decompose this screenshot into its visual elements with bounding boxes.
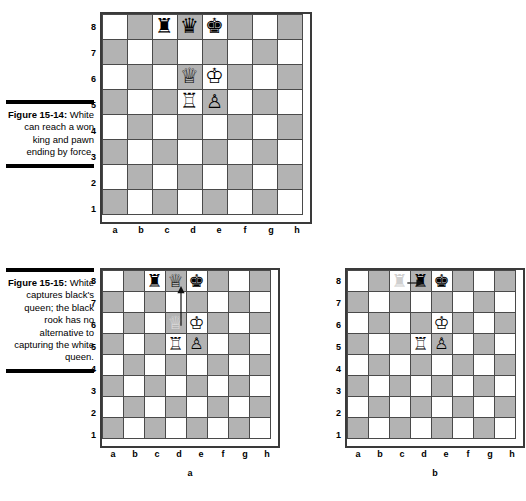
square-c4[interactable] xyxy=(389,354,411,376)
square-b4[interactable] xyxy=(368,354,390,376)
square-g8[interactable] xyxy=(252,14,278,40)
square-e6[interactable]: ♔ xyxy=(431,312,453,334)
square-b5[interactable] xyxy=(127,89,153,115)
square-c1[interactable] xyxy=(152,189,178,215)
piece-white-king-e6[interactable]: ♔ xyxy=(203,65,227,89)
piece-white-pawn-e5[interactable]: ♙ xyxy=(432,334,452,354)
piece-white-queen-d8[interactable]: ♕ xyxy=(166,271,186,291)
square-c5[interactable] xyxy=(152,89,178,115)
square-c1[interactable] xyxy=(389,417,411,439)
square-b6[interactable] xyxy=(123,312,145,334)
square-d1[interactable] xyxy=(177,189,203,215)
square-b7[interactable] xyxy=(127,39,153,65)
square-f7[interactable] xyxy=(207,291,229,313)
square-f5[interactable] xyxy=(452,333,474,355)
piece-white-rook-d5[interactable]: ♖ xyxy=(411,334,431,354)
square-d3[interactable] xyxy=(410,375,432,397)
square-e2[interactable] xyxy=(431,396,453,418)
square-h1[interactable] xyxy=(494,417,516,439)
square-f2[interactable] xyxy=(227,164,253,190)
square-c6[interactable] xyxy=(389,312,411,334)
square-d6[interactable]: ♕ xyxy=(177,64,203,90)
square-g1[interactable] xyxy=(473,417,495,439)
piece-black-rook-c8[interactable]: ♜ xyxy=(145,271,165,291)
square-c3[interactable] xyxy=(152,139,178,165)
square-a6[interactable] xyxy=(102,312,124,334)
square-e6[interactable]: ♔ xyxy=(186,312,208,334)
square-d8[interactable]: ♜ xyxy=(410,270,432,292)
square-c2[interactable] xyxy=(389,396,411,418)
square-c8[interactable]: ♜ xyxy=(152,14,178,40)
square-a1[interactable] xyxy=(102,189,128,215)
square-c3[interactable] xyxy=(389,375,411,397)
square-a7[interactable] xyxy=(347,291,369,313)
square-g2[interactable] xyxy=(228,396,250,418)
square-b4[interactable] xyxy=(127,114,153,140)
board-grid[interactable]: ♜♜♚♔♖♙ xyxy=(345,268,525,448)
square-a1[interactable] xyxy=(102,417,124,439)
square-d7[interactable] xyxy=(165,291,187,313)
square-h8[interactable] xyxy=(249,270,271,292)
square-f3[interactable] xyxy=(207,375,229,397)
piece-white-pawn-e5[interactable]: ♙ xyxy=(203,90,227,114)
square-d3[interactable] xyxy=(165,375,187,397)
piece-white-pawn-e5[interactable]: ♙ xyxy=(187,334,207,354)
square-h7[interactable] xyxy=(494,291,516,313)
square-f4[interactable] xyxy=(227,114,253,140)
piece-white-queen-d6-ghost[interactable]: ♕ xyxy=(166,313,186,333)
square-b3[interactable] xyxy=(368,375,390,397)
square-b4[interactable] xyxy=(123,354,145,376)
square-h4[interactable] xyxy=(277,114,303,140)
square-a2[interactable] xyxy=(347,396,369,418)
square-d8[interactable]: ♛ xyxy=(177,14,203,40)
square-a7[interactable] xyxy=(102,291,124,313)
board-grid[interactable]: ♜♕♚♕♔♖♙ xyxy=(100,268,280,448)
piece-black-king-e8[interactable]: ♚ xyxy=(187,271,207,291)
square-d7[interactable] xyxy=(410,291,432,313)
square-f8[interactable] xyxy=(452,270,474,292)
square-a4[interactable] xyxy=(102,354,124,376)
square-g2[interactable] xyxy=(252,164,278,190)
square-c7[interactable] xyxy=(144,291,166,313)
square-b6[interactable] xyxy=(368,312,390,334)
square-a8[interactable] xyxy=(347,270,369,292)
square-f6[interactable] xyxy=(452,312,474,334)
square-c1[interactable] xyxy=(144,417,166,439)
square-e8[interactable]: ♚ xyxy=(431,270,453,292)
square-h5[interactable] xyxy=(277,89,303,115)
square-a5[interactable] xyxy=(102,89,128,115)
square-c2[interactable] xyxy=(144,396,166,418)
square-g7[interactable] xyxy=(473,291,495,313)
square-f7[interactable] xyxy=(227,39,253,65)
square-b5[interactable] xyxy=(368,333,390,355)
square-e4[interactable] xyxy=(202,114,228,140)
square-g6[interactable] xyxy=(252,64,278,90)
square-f4[interactable] xyxy=(207,354,229,376)
square-h1[interactable] xyxy=(277,189,303,215)
square-b6[interactable] xyxy=(127,64,153,90)
piece-white-king-e6[interactable]: ♔ xyxy=(432,313,452,333)
piece-black-king-e8[interactable]: ♚ xyxy=(203,15,227,39)
square-e3[interactable] xyxy=(202,139,228,165)
square-f5[interactable] xyxy=(227,89,253,115)
square-f4[interactable] xyxy=(452,354,474,376)
square-h3[interactable] xyxy=(277,139,303,165)
square-b8[interactable] xyxy=(123,270,145,292)
square-h6[interactable] xyxy=(494,312,516,334)
square-c4[interactable] xyxy=(152,114,178,140)
square-h4[interactable] xyxy=(249,354,271,376)
square-c3[interactable] xyxy=(144,375,166,397)
square-g6[interactable] xyxy=(228,312,250,334)
square-a3[interactable] xyxy=(347,375,369,397)
square-a7[interactable] xyxy=(102,39,128,65)
square-a5[interactable] xyxy=(102,333,124,355)
piece-white-rook-d5[interactable]: ♖ xyxy=(178,90,202,114)
piece-black-rook-c8-ghost[interactable]: ♜ xyxy=(390,271,410,291)
piece-black-rook-d8[interactable]: ♜ xyxy=(411,271,431,291)
square-b2[interactable] xyxy=(368,396,390,418)
square-e2[interactable] xyxy=(186,396,208,418)
square-d4[interactable] xyxy=(177,114,203,140)
square-f5[interactable] xyxy=(207,333,229,355)
square-h3[interactable] xyxy=(494,375,516,397)
square-b5[interactable] xyxy=(123,333,145,355)
